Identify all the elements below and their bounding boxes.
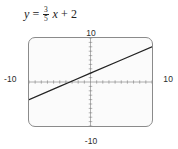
y-min-label: -10 [2, 136, 178, 146]
plot-canvas [29, 38, 152, 126]
graph-figure: 10 -10 10 -10 [0, 28, 178, 146]
equation-plus-sign: + [61, 7, 68, 22]
slope-fraction: 3 5 [43, 6, 49, 23]
viewing-window [28, 37, 153, 127]
equation-caption: y = 3 5 x + 2 [24, 6, 77, 23]
x-min-label: -10 [4, 74, 17, 84]
equation-variable: x [53, 7, 59, 22]
equation-lhs: y [24, 7, 30, 22]
slope-numerator: 3 [43, 6, 49, 14]
equation-intercept: 2 [71, 7, 77, 22]
slope-denominator: 5 [43, 15, 49, 23]
equation-equals-sign: = [33, 7, 40, 22]
x-max-label: 10 [163, 74, 173, 84]
